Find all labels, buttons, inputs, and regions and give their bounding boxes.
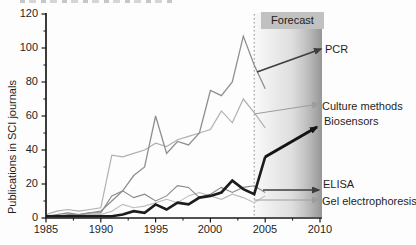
x-tick-2005: 2005: [243, 223, 287, 236]
x-tick-2000: 2000: [188, 223, 232, 236]
publications-trend-chart: Publications in SCI journals 0 20 40 60 …: [0, 0, 416, 245]
series-label-pcr: PCR: [325, 43, 348, 56]
series-line-pcr: [46, 36, 265, 216]
y-tick-100: 100: [6, 41, 38, 54]
x-tick-1985: 1985: [24, 223, 68, 236]
x-tick-1995: 1995: [134, 223, 178, 236]
y-tick-20: 20: [6, 177, 38, 190]
forecast-label: Forecast: [261, 12, 324, 29]
y-tick-120: 120: [6, 7, 38, 20]
x-tick-1990: 1990: [79, 223, 123, 236]
series-label-biosensors: Biosensors: [324, 115, 378, 128]
x-tick-2010: 2010: [298, 223, 342, 236]
series-label-elisa: ELISA: [323, 178, 354, 191]
y-tick-40: 40: [6, 143, 38, 156]
series-label-culture-methods: Culture methods: [322, 100, 403, 113]
series-line-biosensors: [46, 157, 265, 217]
y-tick-80: 80: [6, 75, 38, 88]
forecast-band: [254, 13, 322, 217]
y-tick-60: 60: [6, 109, 38, 122]
series-label-gel-electrophoresis: Gel electrophoresis: [322, 195, 416, 208]
